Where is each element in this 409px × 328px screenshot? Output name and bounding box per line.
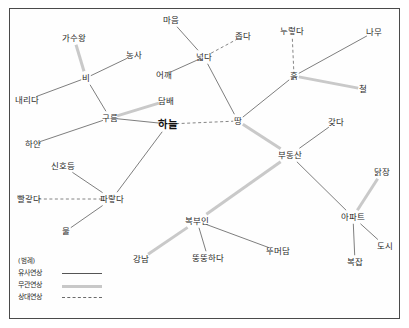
node-label: 누렇다	[280, 27, 303, 36]
legend-swatch-dashed-line	[62, 294, 102, 300]
node-label: 내리다	[15, 96, 38, 105]
node-label: 하얀	[25, 140, 41, 149]
node-label: 구름	[102, 114, 118, 123]
center-node-label: 하늘	[158, 119, 178, 130]
legend-item-opposite: 상대연상	[18, 294, 102, 301]
legend-swatch-thick-gray-line	[62, 282, 102, 288]
node-label: 농사	[126, 51, 142, 60]
node-label: 파랗다	[100, 195, 123, 204]
node-label: 닭장	[374, 168, 390, 177]
node-label: 부동산	[278, 151, 301, 160]
node-label: 넓다	[196, 53, 212, 62]
legend-item-similar: 유사연상	[18, 270, 102, 277]
node-label: 신호등	[51, 162, 74, 171]
node-label: 강남	[133, 255, 149, 264]
node-label: 아파트	[341, 213, 364, 222]
node-label: 담배	[158, 97, 174, 106]
legend-label-unrelated: 무관연상	[18, 282, 62, 289]
node-label: 뚜머담	[266, 247, 289, 256]
diagram-canvas: 하늘구름비가수왕농사내리다하얀담배어깨넓다마음좁다땅흙누렇다나무철부동산갖다아파…	[0, 0, 409, 328]
legend-swatch-solid-line	[62, 270, 102, 276]
node-label: 복잡	[347, 258, 363, 267]
node-label: 마음	[163, 16, 179, 25]
node-label: 갖다	[328, 118, 344, 127]
node-label: 복부인	[185, 217, 208, 226]
legend-label-opposite: 상대연상	[18, 294, 62, 301]
node-label: 도시	[377, 242, 393, 251]
node-label: 좁다	[235, 32, 251, 41]
legend-item-unrelated: 무관연상	[18, 282, 102, 289]
node-label: 흙	[290, 72, 298, 81]
node-label: 땅	[234, 117, 242, 126]
node-label: 나무	[366, 28, 382, 37]
node-label: 물	[62, 227, 70, 236]
node-label: 비	[82, 74, 90, 83]
legend-label-similar: 유사연상	[18, 270, 62, 277]
node-label: 뚱뚱하다	[192, 254, 223, 263]
node-label: 빨갛다	[17, 195, 40, 204]
legend: (범례) 유사연상 무관연상 상대연상	[18, 258, 102, 306]
legend-title: (범례)	[18, 258, 102, 265]
node-label: 가수왕	[62, 34, 85, 43]
node-label: 어깨	[156, 71, 172, 80]
node-label: 철	[359, 85, 367, 94]
